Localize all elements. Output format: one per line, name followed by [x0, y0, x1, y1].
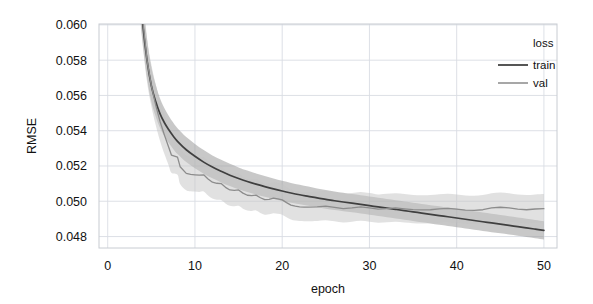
y-tick-0.056: 0.056 [56, 89, 87, 103]
legend-title: loss [533, 37, 554, 49]
figure-background [0, 0, 593, 304]
x-tick-40: 40 [450, 259, 464, 273]
y-tick-0.054: 0.054 [56, 124, 87, 138]
x-tick-50: 50 [537, 259, 551, 273]
y-tick-0.048: 0.048 [56, 230, 87, 244]
legend-label-train: train [533, 59, 555, 71]
x-tick-10: 10 [188, 259, 202, 273]
y-axis-title: RMSE [25, 118, 39, 154]
y-tick-0.050: 0.050 [56, 195, 87, 209]
x-tick-30: 30 [362, 259, 376, 273]
rmse-epoch-line-chart: 01020304050 0.0480.0500.0520.0540.0560.0… [0, 0, 593, 304]
x-tick-20: 20 [275, 259, 289, 273]
x-tick-0: 0 [104, 259, 111, 273]
chart-figure: 01020304050 0.0480.0500.0520.0540.0560.0… [0, 0, 593, 304]
x-axis-title: epoch [311, 282, 345, 296]
y-tick-0.060: 0.060 [56, 18, 87, 32]
legend-label-val: val [533, 77, 548, 89]
y-tick-0.052: 0.052 [56, 159, 87, 173]
y-tick-0.058: 0.058 [56, 54, 87, 68]
